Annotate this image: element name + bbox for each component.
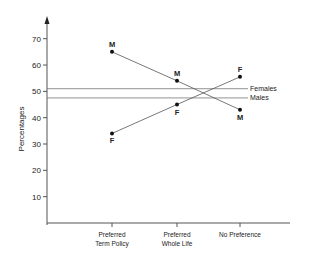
data-point-f	[238, 75, 242, 79]
y-tick-label: 60	[32, 61, 41, 70]
data-point-m	[175, 79, 179, 83]
point-label-m: M	[174, 69, 180, 78]
point-label-m: M	[109, 40, 115, 49]
reference-label-females: Females	[250, 85, 277, 92]
reference-label-males: Males	[250, 94, 269, 101]
point-label-f: F	[175, 108, 180, 117]
y-tick-label: 20	[32, 166, 41, 175]
data-point-m	[110, 50, 114, 54]
y-tick-label: 70	[32, 35, 41, 44]
point-label-m: M	[237, 113, 243, 122]
x-tick-label: Preferred	[163, 231, 190, 238]
y-tick-label: 40	[32, 114, 41, 123]
reference-lines: FemalesMales	[47, 85, 277, 101]
y-axis-title: Percentages	[17, 107, 26, 152]
y-tick-label: 30	[32, 140, 41, 149]
x-tick-label: No Preference	[219, 231, 261, 238]
y-tick-label: 10	[32, 193, 41, 202]
line-chart: 10203040506070PreferredTerm PolicyPrefer…	[0, 0, 327, 260]
data-point-f	[110, 131, 114, 135]
point-label-f: F	[238, 65, 243, 74]
series-group: MMMFFF	[109, 40, 243, 146]
x-tick-label: Preferred	[98, 231, 125, 238]
x-tick-label: Whole Life	[162, 240, 193, 247]
data-point-m	[238, 108, 242, 112]
data-point-f	[175, 103, 179, 107]
axes: 10203040506070PreferredTerm PolicyPrefer…	[32, 16, 290, 248]
x-tick-label: Term Policy	[95, 240, 129, 248]
point-label-f: F	[110, 136, 115, 145]
axis-labels: Percentages	[17, 107, 26, 152]
y-axis-arrow-icon	[45, 16, 50, 24]
y-tick-label: 50	[32, 87, 41, 96]
